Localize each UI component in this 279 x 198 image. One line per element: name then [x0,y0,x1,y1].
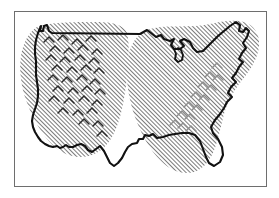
us-map-illustration [0,0,279,198]
map-figure [0,0,279,198]
